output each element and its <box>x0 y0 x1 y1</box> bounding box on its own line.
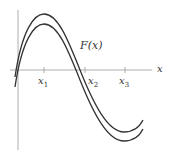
tick-label-x2: x2 <box>88 76 98 89</box>
function-diagram: F(x) x x1 x2 x3 <box>0 0 172 157</box>
curve-label: F(x) <box>80 40 102 51</box>
tick-label-x3: x3 <box>119 76 129 89</box>
x-axis-label: x <box>157 64 163 74</box>
upper-curve <box>15 14 143 132</box>
diagram-canvas <box>0 0 172 157</box>
tick-label-x1: x1 <box>38 76 48 89</box>
